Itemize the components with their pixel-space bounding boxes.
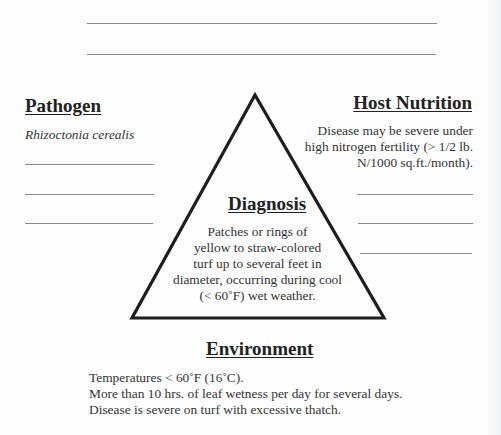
pathogen-heading: Pathogen [25,95,101,117]
diagnosis-text: Patches or rings of yellow to straw-colo… [175,224,340,304]
host-nutrition-blank-line-1 [357,194,473,195]
diagnosis-line: turf up to several feet in [175,256,340,272]
diagnosis-line: (< 60˚F) wet weather. [175,288,340,304]
pathogen-blank-line-2 [25,194,154,195]
diagnosis-line: diameter, occurring during cool [165,272,350,288]
diagnosis-heading: Diagnosis [228,193,306,215]
host-nutrition-line: Disease may be severe under [305,123,473,139]
diagnosis-line: Patches or rings of [175,224,340,240]
environment-line: Disease is severe on turf with excessive… [89,402,402,418]
environment-text: Temperatures < 60˚F (16˚C). More than 10… [89,370,402,418]
environment-line: More than 10 hrs. of leaf wetness per da… [89,386,402,402]
host-nutrition-line: high nitrogen fertility (> 1/2 lb. [305,139,473,155]
host-nutrition-blank-line-2 [358,223,473,224]
host-nutrition-text: Disease may be severe under high nitroge… [305,123,473,171]
pathogen-blank-line-3 [25,223,153,224]
diagnosis-line: yellow to straw-colored [175,240,340,256]
environment-heading: Environment [206,338,313,360]
host-nutrition-line: N/1000 sq.ft./month). [305,155,473,171]
host-nutrition-heading: Host Nutrition [353,92,472,114]
pathogen-organism: Rhizoctonia cerealis [25,127,134,143]
environment-line: Temperatures < 60˚F (16˚C). [89,370,402,386]
host-nutrition-blank-line-3 [360,253,472,254]
pathogen-blank-line-1 [25,164,154,165]
